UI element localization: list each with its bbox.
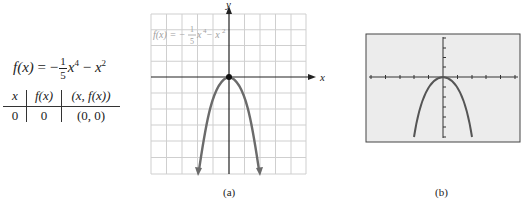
graph-b (366, 34, 520, 142)
y-axis-label: y (225, 0, 231, 10)
label-lhs: f(x) = − (153, 29, 185, 41)
label-den: 5 (190, 37, 194, 46)
x-axis-label: x (319, 71, 325, 83)
label-e2: 2 (222, 27, 226, 35)
graph-a-label: f(x) = − 1 5 x 4 − x 2 (153, 25, 226, 46)
x-axis-arrow-icon (308, 74, 316, 80)
curve-arrow-left-icon (195, 167, 202, 176)
graph-a: x y f(x) = − 1 5 x 4 − x 2 (0, 0, 522, 205)
caption-b: (b) (435, 186, 448, 198)
label-num: 1 (190, 25, 194, 34)
label-x4: x (196, 29, 202, 40)
curve-arrow-right-icon (256, 167, 263, 176)
caption-a: (a) (223, 186, 235, 198)
label-mid: − x (206, 29, 220, 40)
origin-point (226, 74, 232, 80)
